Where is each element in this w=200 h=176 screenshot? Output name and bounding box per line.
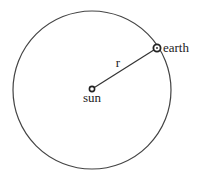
orbit-diagram: r sun earth	[0, 0, 200, 176]
earth-label: earth	[163, 40, 189, 55]
radius-label: r	[116, 55, 121, 70]
earth-icon	[153, 44, 160, 51]
sun-label: sun	[83, 90, 102, 105]
radius-line	[92, 48, 157, 89]
